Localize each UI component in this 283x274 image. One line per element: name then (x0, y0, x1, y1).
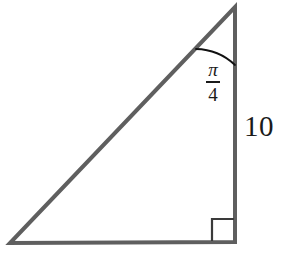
fraction-numerator: π (206, 60, 220, 80)
right-angle-marker-icon (212, 219, 234, 241)
fraction-bar (206, 81, 220, 83)
fraction: π 4 (206, 60, 220, 104)
figure-root: π 4 10 (0, 0, 283, 274)
triangle-outline (10, 7, 235, 243)
angle-label: π 4 (198, 60, 228, 104)
triangle-diagram (0, 0, 283, 274)
fraction-denominator: 4 (206, 84, 220, 104)
side-length-label: 10 (244, 112, 274, 141)
